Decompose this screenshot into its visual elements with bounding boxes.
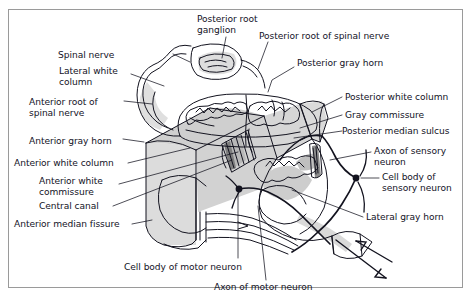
label-posterior-median-sulcus: Posterior median sulcus xyxy=(342,126,449,137)
label-axon-of-sensory-neuron: Axon of sensory neuron xyxy=(374,146,446,167)
label-anterior-white-column: Anterior white column xyxy=(14,158,114,169)
label-anterior-root-spinal-nerve: Anterior root of spinal nerve xyxy=(29,97,98,118)
label-posterior-gray-horn: Posterior gray horn xyxy=(297,58,383,69)
label-anterior-gray-horn: Anterior gray horn xyxy=(29,136,112,147)
label-anterior-median-fissure: Anterior median fissure xyxy=(14,219,120,230)
spinal-cord-diagram-figure: Posterior root ganglion Posterior root o… xyxy=(0,0,475,305)
label-posterior-root-spinal-nerve: Posterior root of spinal nerve xyxy=(259,31,389,42)
label-posterior-white-column: Posterior white column xyxy=(345,92,448,103)
label-axon-of-motor-neuron: Axon of motor neuron xyxy=(214,282,312,293)
label-anterior-white-commissure: Anterior white commissure xyxy=(39,176,103,197)
label-central-canal: Central canal xyxy=(39,201,99,212)
label-posterior-root-ganglion: Posterior root ganglion xyxy=(197,14,258,35)
label-gray-commissure: Gray commissure xyxy=(345,110,424,121)
label-lateral-white-column: Lateral white column xyxy=(59,66,118,87)
label-spinal-nerve: Spinal nerve xyxy=(58,50,114,61)
label-cell-body-of-motor-neuron: Cell body of motor neuron xyxy=(124,262,242,273)
label-cell-body-of-sensory-neuron: Cell body of sensory neuron xyxy=(382,172,452,193)
label-lateral-gray-horn: Lateral gray horn xyxy=(366,212,444,223)
